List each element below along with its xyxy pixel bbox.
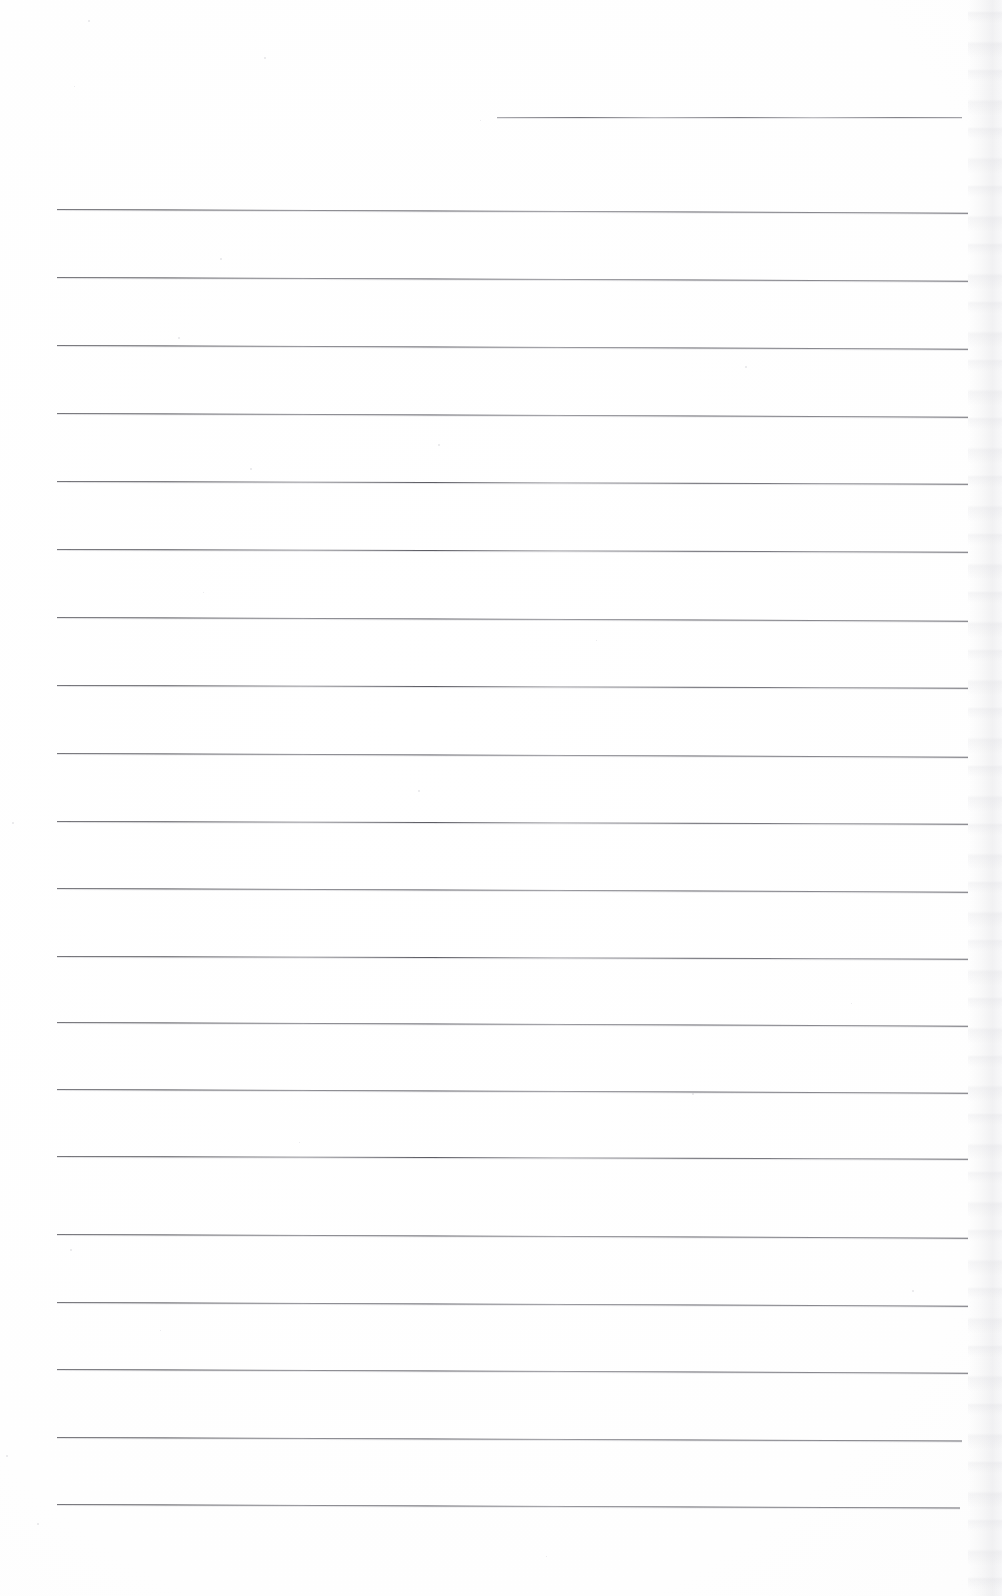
ruled-line — [57, 1089, 968, 1094]
paper-speck — [692, 1093, 694, 1095]
paper-speck — [74, 86, 75, 87]
paper-speck — [264, 57, 266, 59]
paper-speck — [596, 640, 597, 641]
paper-speck — [6, 1455, 8, 1457]
ruled-line — [57, 549, 968, 553]
paper-speck — [438, 444, 440, 446]
paper-surface — [0, 0, 1002, 1596]
paper-speck — [851, 1003, 852, 1004]
ruled-line-short — [497, 117, 962, 118]
paper-speck — [418, 790, 420, 792]
paper-speck — [745, 366, 747, 368]
ruled-line — [57, 1302, 968, 1307]
ruled-line — [57, 1022, 968, 1027]
ruled-line — [57, 1369, 968, 1374]
paper-speck — [178, 337, 180, 339]
paper-speck — [88, 20, 90, 22]
paper-speck — [37, 1523, 39, 1525]
ruled-line — [57, 481, 968, 485]
ruled-line — [57, 956, 968, 960]
ruled-line — [57, 209, 968, 214]
paper-speck — [12, 822, 14, 824]
ruled-line — [57, 1504, 960, 1509]
ruled-line — [57, 1156, 968, 1160]
paper-speck — [70, 1249, 72, 1251]
ruled-line — [57, 413, 968, 418]
ruled-line — [57, 1234, 968, 1239]
ruled-line — [57, 1437, 962, 1442]
scanned-page — [0, 0, 1002, 1596]
paper-speck — [203, 592, 204, 593]
ruled-line — [57, 345, 968, 350]
paper-speck — [299, 1142, 300, 1143]
paper-speck — [160, 1330, 161, 1331]
paper-speck — [220, 258, 222, 260]
paper-speck — [250, 468, 252, 470]
paper-speck — [480, 120, 481, 121]
paper-speck — [912, 1290, 914, 1292]
ruled-line — [57, 685, 968, 689]
ruled-line — [57, 888, 968, 893]
paper-speck — [546, 1556, 547, 1557]
ruled-line — [57, 617, 968, 622]
ruled-line — [57, 753, 968, 758]
ruled-line — [57, 277, 968, 282]
right-edge-texture — [968, 0, 1002, 1596]
right-edge-shadow — [968, 0, 1002, 1596]
ruled-line — [57, 821, 968, 825]
